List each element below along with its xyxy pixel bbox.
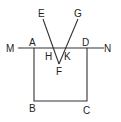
label-K: K	[64, 51, 71, 62]
label-G: G	[74, 8, 82, 19]
label-D: D	[82, 37, 89, 48]
label-H: H	[45, 51, 52, 62]
label-F: F	[56, 66, 62, 77]
label-N: N	[104, 43, 111, 54]
label-M: M	[6, 43, 14, 54]
label-C: C	[83, 105, 90, 116]
label-B: B	[29, 103, 36, 114]
geometry-diagram: M A H K D N E G F B C	[0, 0, 121, 122]
label-A: A	[29, 37, 36, 48]
label-E: E	[38, 8, 45, 19]
